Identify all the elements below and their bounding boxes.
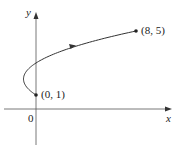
plot-area bbox=[0, 0, 183, 150]
point-end bbox=[134, 29, 138, 33]
point-start bbox=[34, 93, 38, 97]
origin-label: 0 bbox=[28, 112, 34, 124]
point-end-label: (8, 5) bbox=[141, 24, 165, 36]
x-axis-arrow-icon bbox=[165, 107, 172, 112]
y-axis-label: y bbox=[26, 6, 31, 18]
x-axis-label: x bbox=[166, 112, 171, 124]
curve bbox=[24, 31, 137, 95]
parametric-curve-figure: y x 0 (0, 1) (8, 5) bbox=[0, 0, 183, 150]
point-start-label: (0, 1) bbox=[41, 88, 65, 100]
y-axis-arrow-icon bbox=[34, 12, 39, 19]
